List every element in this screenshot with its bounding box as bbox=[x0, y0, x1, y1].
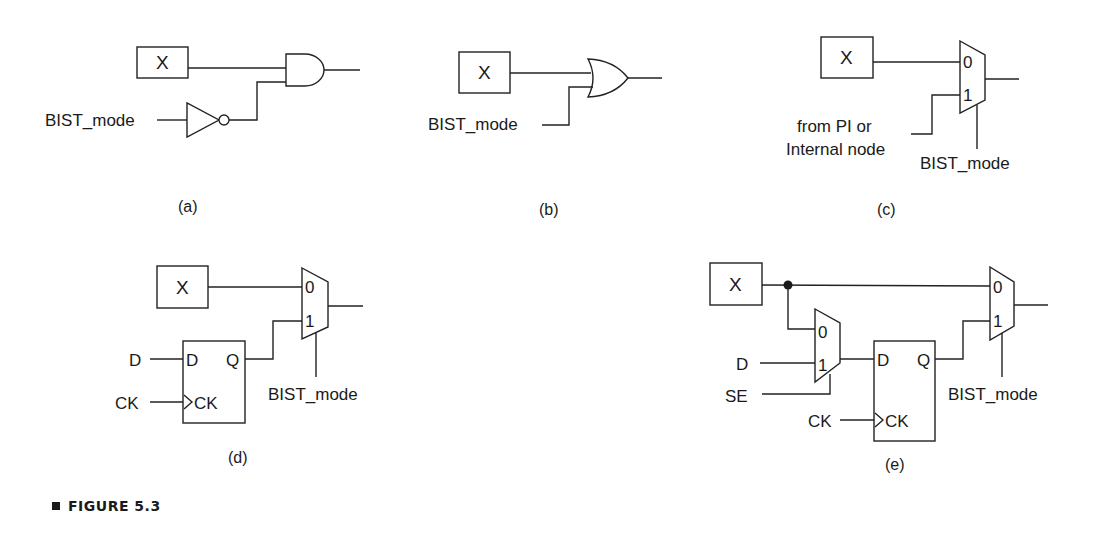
figure-caption-text: FIGURE 5.3 bbox=[68, 498, 161, 514]
panel-c: X 0 1 from PI or Internal node BIST_mode… bbox=[786, 37, 1019, 218]
panel-d: X 0 1 BIST_mode D Q CK D CK (d) bbox=[115, 266, 363, 466]
ff-pin-d: D bbox=[186, 351, 198, 370]
mux-input-1-label: 1 bbox=[993, 312, 1002, 331]
ck-input-label: CK bbox=[115, 394, 139, 413]
panel-c-sublabel: (c) bbox=[877, 201, 896, 218]
bist-mode-label: BIST_mode bbox=[45, 111, 135, 130]
bist-mode-label: BIST_mode bbox=[920, 154, 1010, 173]
d-input-label: D bbox=[736, 355, 748, 374]
block-x-label: X bbox=[478, 62, 491, 83]
block-x-label: X bbox=[840, 47, 853, 68]
mux-input-1-label: 1 bbox=[305, 312, 314, 331]
and-gate-icon bbox=[286, 54, 324, 86]
wire bbox=[542, 87, 593, 125]
panel-a: X BIST_mode (a) bbox=[45, 47, 360, 215]
se-input-label: SE bbox=[725, 387, 748, 406]
scan-mux-input-1-label: 1 bbox=[818, 356, 827, 375]
mux-input-0-label: 0 bbox=[305, 278, 314, 297]
figure-canvas: X BIST_mode (a) X BIST_mode (b) X 0 1 bbox=[0, 0, 1102, 533]
alt-input-label-line2: Internal node bbox=[786, 140, 885, 159]
block-x-label: X bbox=[156, 52, 169, 73]
mux-input-1-label: 1 bbox=[963, 86, 972, 105]
block-x-label: X bbox=[729, 274, 742, 295]
ff-pin-q: Q bbox=[226, 351, 239, 370]
wire bbox=[935, 321, 990, 359]
inverter-icon bbox=[187, 103, 219, 137]
wire bbox=[788, 285, 815, 329]
ff-pin-d: D bbox=[877, 351, 889, 370]
wire bbox=[911, 95, 960, 134]
panel-e: X 0 1 D SE D Q CK CK 0 1 BIST_mode (e) bbox=[710, 263, 1048, 473]
scan-mux-input-0-label: 0 bbox=[818, 323, 827, 342]
ff-pin-q: Q bbox=[917, 351, 930, 370]
panel-a-sublabel: (a) bbox=[178, 198, 198, 215]
figure-caption: FIGURE 5.3 bbox=[52, 498, 161, 514]
bist-mode-label: BIST_mode bbox=[268, 385, 358, 404]
caption-square-icon bbox=[52, 502, 60, 510]
panel-e-sublabel: (e) bbox=[885, 456, 905, 473]
block-x-label: X bbox=[176, 277, 189, 298]
or-gate-icon bbox=[588, 59, 628, 97]
inverter-bubble-icon bbox=[219, 115, 229, 125]
ff-pin-ck: CK bbox=[194, 394, 218, 413]
d-input-label: D bbox=[129, 351, 141, 370]
ff-pin-ck: CK bbox=[885, 412, 909, 431]
wire bbox=[245, 321, 302, 359]
wire bbox=[762, 285, 990, 286]
panel-d-sublabel: (d) bbox=[228, 449, 248, 466]
alt-input-label-line1: from PI or bbox=[797, 117, 872, 136]
bist-mode-label: BIST_mode bbox=[428, 115, 518, 134]
bist-mode-label: BIST_mode bbox=[948, 385, 1038, 404]
ck-input-label: CK bbox=[808, 412, 832, 431]
panel-b: X BIST_mode (b) bbox=[428, 52, 662, 218]
mux-input-0-label: 0 bbox=[993, 278, 1002, 297]
wire bbox=[229, 82, 286, 120]
mux-input-0-label: 0 bbox=[963, 53, 972, 72]
panel-b-sublabel: (b) bbox=[539, 201, 559, 218]
